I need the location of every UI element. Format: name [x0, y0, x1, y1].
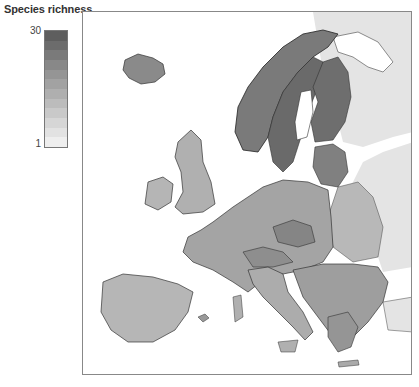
- sardinia-corsica: [233, 295, 243, 322]
- legend-step: [45, 128, 67, 138]
- great-britain: [175, 130, 215, 214]
- turkey-edge: [383, 297, 412, 332]
- legend-step: [45, 41, 67, 51]
- iberian-peninsula: [101, 274, 193, 342]
- legend-color-ramp: [44, 30, 68, 148]
- crete: [338, 360, 359, 367]
- legend-step: [45, 99, 67, 109]
- balearic-islands: [198, 314, 209, 322]
- legend-step: [45, 70, 67, 80]
- legend-step: [45, 79, 67, 89]
- ireland: [145, 177, 173, 210]
- legend-min-label: 1: [19, 138, 41, 149]
- legend-title: Species richness: [4, 3, 92, 15]
- baltic-states: [313, 144, 348, 187]
- legend-step: [45, 31, 67, 41]
- europe-map: [83, 12, 412, 375]
- legend-step: [45, 60, 67, 70]
- legend-step: [45, 89, 67, 99]
- iceland: [123, 54, 165, 84]
- legend-step: [45, 137, 67, 147]
- sicily: [278, 340, 298, 352]
- legend-max-label: 30: [19, 25, 41, 36]
- map-panel: [82, 11, 412, 375]
- legend-step: [45, 108, 67, 118]
- legend-step: [45, 50, 67, 60]
- legend-step: [45, 118, 67, 128]
